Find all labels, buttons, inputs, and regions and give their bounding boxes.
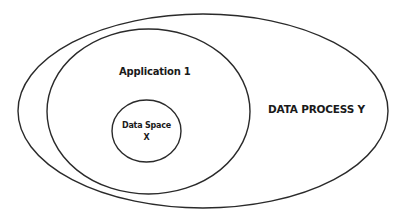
diagram-canvas: Application 1 DATA PROCESS Y Data Space … (0, 0, 401, 219)
data-space-x-label-line2: X (112, 132, 181, 144)
data-space-x-label-line1: Data Space (112, 120, 181, 132)
data-process-y-label: DATA PROCESS Y (268, 104, 365, 115)
data-space-x-label: Data Space X (112, 120, 181, 144)
application-1-ellipse (47, 29, 250, 194)
application-1-label: Application 1 (119, 67, 191, 77)
